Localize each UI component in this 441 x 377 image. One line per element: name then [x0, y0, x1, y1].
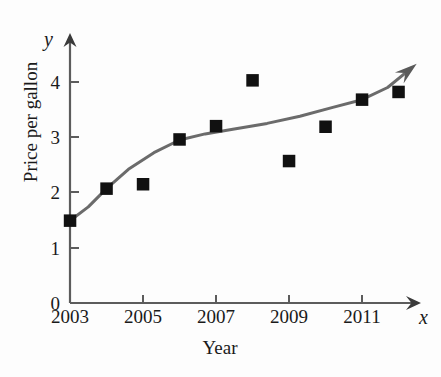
x-tick-label-2007: 2007	[181, 306, 251, 328]
y-axis	[64, 33, 77, 303]
y-axis-title-text: Price per gallon	[20, 37, 42, 207]
data-point	[319, 121, 332, 134]
data-point	[392, 86, 405, 99]
x-tick-label-2003: 2003	[35, 306, 105, 328]
x-axis-variable-label: x	[419, 306, 428, 329]
x-axis-ticks	[143, 295, 362, 303]
curve-path	[70, 68, 411, 221]
data-point	[64, 214, 77, 227]
x-tick-label-2009: 2009	[254, 306, 324, 328]
scatter-plot-figure: y x 0 1 2 3 4 2003 2005 2007 2009 2011 P…	[0, 0, 441, 377]
x-tick-label-2011: 2011	[327, 306, 397, 328]
data-point	[173, 133, 186, 146]
regression-curve	[70, 64, 417, 221]
data-point	[283, 155, 296, 168]
x-axis-title: Year	[130, 337, 310, 359]
y-axis-variable-label: y	[44, 28, 53, 51]
y-tick-label-1: 1	[34, 238, 60, 260]
data-point	[210, 120, 223, 132]
x-tick-label-2005: 2005	[108, 306, 178, 328]
data-point	[137, 178, 150, 191]
y-axis-title: Price per gallon	[20, 37, 44, 207]
data-point	[246, 74, 258, 87]
data-point-markers	[64, 74, 405, 227]
data-point	[356, 93, 369, 106]
data-point	[100, 182, 113, 195]
